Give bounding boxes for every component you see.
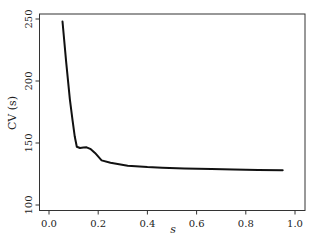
x-tick-label: 0.0 (41, 218, 57, 229)
cv-curve (63, 22, 283, 171)
x-tick-label: 1.0 (287, 218, 303, 229)
y-tick-label: 250 (23, 9, 34, 28)
y-axis-label: CV (s) (6, 96, 19, 130)
y-tick-label: 100 (23, 195, 34, 214)
cv-line-chart: 0.00.20.40.60.81.0 100150200250 s CV (s) (0, 0, 317, 243)
plot-frame (40, 14, 306, 211)
x-axis-label: s (170, 223, 176, 236)
x-tick-label: 0.2 (90, 218, 106, 229)
x-tick-label: 0.4 (139, 218, 155, 229)
x-tick-label: 0.8 (238, 218, 254, 229)
x-tick-label: 0.6 (189, 218, 205, 229)
y-tick-label: 150 (23, 133, 34, 152)
y-axis-ticks: 100150200250 (23, 9, 40, 214)
y-tick-label: 200 (23, 71, 34, 90)
